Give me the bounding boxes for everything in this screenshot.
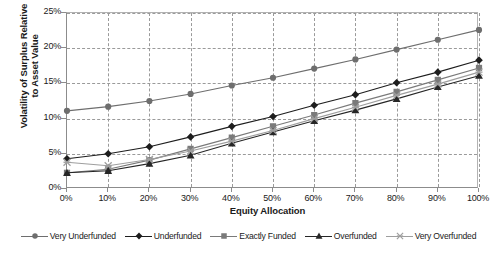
data-point-diamond-marker — [393, 79, 401, 87]
x-tick-label: 30% — [168, 193, 212, 203]
plot-area — [66, 12, 478, 188]
x-tick-label: 90% — [415, 193, 459, 203]
x-tick-label: 40% — [209, 193, 253, 203]
x-tick-label: 50% — [250, 193, 294, 203]
series-line — [67, 68, 479, 173]
data-point-circle-marker — [352, 56, 358, 62]
legend-marker — [135, 232, 143, 240]
data-point-diamond-marker — [187, 133, 195, 141]
legend-marker — [315, 232, 323, 240]
data-point-diamond-marker — [146, 143, 154, 151]
data-point-diamond-marker — [269, 113, 277, 121]
data-point-diamond-marker — [104, 150, 112, 158]
legend-square-icon — [210, 231, 237, 241]
legend-label: Exactly Funded — [239, 231, 295, 241]
data-point-circle-marker — [64, 108, 70, 114]
data-point-circle-marker — [311, 66, 317, 72]
legend-asterisk-icon — [386, 231, 413, 241]
y-tick-label: 20% — [30, 41, 61, 51]
legend-label: Very Overfunded — [415, 231, 477, 241]
data-point-circle-marker — [146, 98, 152, 104]
data-point-diamond-marker — [475, 56, 483, 64]
x-tick-label: 70% — [332, 193, 376, 203]
x-tick-label: 10% — [85, 193, 129, 203]
legend-label: Overfunded — [334, 231, 377, 241]
x-tick-label: 0% — [44, 193, 88, 203]
legend-label: Very Underfunded — [50, 231, 116, 241]
y-tick-label: 10% — [30, 112, 61, 122]
legend-marker — [220, 232, 228, 240]
x-axis-title: Equity Allocation — [0, 205, 497, 216]
x-axis-title-text: Equity Allocation — [230, 205, 306, 216]
series-exactly-funded — [64, 65, 482, 176]
y-tick-label: 25% — [30, 6, 61, 16]
data-point-circle-marker — [476, 27, 482, 33]
y-tick-label: 5% — [30, 147, 61, 157]
legend-marker — [31, 232, 39, 240]
series-very-underfunded — [64, 27, 482, 114]
data-point-circle-marker — [188, 91, 194, 97]
y-axis-title-line-1: Volatility of Surplus Relative — [18, 0, 29, 136]
y-tick-label: 15% — [30, 76, 61, 86]
gridline-vertical — [479, 13, 480, 187]
legend-marker — [396, 232, 404, 240]
legend-item-overfunded: Overfunded — [305, 231, 377, 241]
chart-legend: Very UnderfundedUnderfundedExactly Funde… — [0, 226, 497, 246]
legend-item-exactly-funded: Exactly Funded — [210, 231, 295, 241]
data-point-diamond-marker — [310, 101, 318, 109]
legend-item-very-overfunded: Very Overfunded — [386, 231, 477, 241]
data-point-diamond-marker — [434, 68, 442, 76]
x-tick-label: 100% — [456, 193, 497, 203]
x-tick-label: 60% — [291, 193, 335, 203]
data-point-circle-marker — [229, 82, 235, 88]
data-point-circle-marker — [394, 47, 400, 53]
legend-label: Underfunded — [154, 231, 202, 241]
y-tick-label: 0% — [30, 182, 61, 192]
series-line — [67, 30, 479, 111]
series-underfunded — [63, 56, 483, 162]
legend-item-very-underfunded: Very Underfunded — [21, 231, 116, 241]
legend-item-underfunded: Underfunded — [125, 231, 202, 241]
surplus-volatility-chart: Volatility of Surplus Relative to Asset … — [0, 0, 497, 254]
data-point-diamond-marker — [352, 91, 360, 99]
data-point-diamond-marker — [228, 123, 236, 131]
data-point-circle-marker — [105, 104, 111, 110]
legend-circle-icon — [21, 231, 48, 241]
legend-triangle-icon — [305, 231, 332, 241]
x-tick-label: 20% — [126, 193, 170, 203]
series-layer — [67, 13, 479, 189]
data-point-circle-marker — [270, 75, 276, 81]
legend-diamond-icon — [125, 231, 152, 241]
x-tick-label: 80% — [374, 193, 418, 203]
data-point-circle-marker — [435, 37, 441, 43]
